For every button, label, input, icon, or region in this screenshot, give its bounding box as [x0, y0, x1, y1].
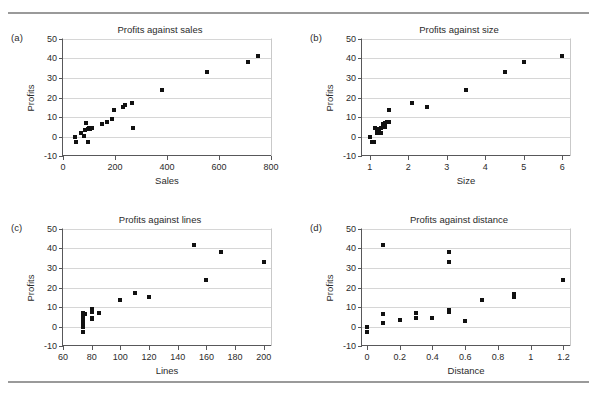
data-point: [463, 319, 467, 323]
y-axis-tick-label: 30: [346, 73, 356, 83]
y-axis-tick-label: 0: [52, 132, 57, 142]
y-axis-tick: [358, 346, 362, 347]
x-axis-tick: [447, 156, 448, 160]
x-axis-tick-label: 80: [87, 352, 97, 362]
data-point: [82, 134, 86, 138]
data-point: [84, 121, 88, 125]
x-axis-tick: [562, 156, 563, 160]
y-axis-tick-label: -10: [343, 151, 356, 161]
x-axis-tick-label: 60: [58, 352, 68, 362]
plot-area: Profits Size -1001020304050123456: [361, 38, 571, 156]
data-point: [560, 54, 564, 58]
x-axis-tick-label: 600: [211, 162, 226, 172]
x-axis-tick-label: 0.8: [492, 352, 505, 362]
data-point: [100, 122, 104, 126]
y-axis-tick: [358, 229, 362, 230]
y-axis-tick: [59, 98, 63, 99]
data-point: [464, 88, 468, 92]
data-point: [379, 131, 383, 135]
y-axis-tick-label: 50: [47, 224, 57, 234]
x-axis-tick-label: 180: [228, 352, 243, 362]
y-axis-tick-label: -10: [343, 341, 356, 351]
x-axis-tick: [115, 156, 116, 160]
gridline: [362, 78, 570, 79]
x-axis-tick: [485, 156, 486, 160]
y-axis-tick: [59, 307, 63, 308]
x-axis-tick-label: 160: [199, 352, 214, 362]
data-point: [219, 250, 223, 254]
y-axis-tick: [358, 78, 362, 79]
gridline: [63, 229, 271, 230]
x-axis-tick: [219, 156, 220, 160]
y-axis-tick: [358, 117, 362, 118]
data-point: [204, 278, 208, 282]
panel-profits-against-size: (b) Profits against size Profits Size -1…: [299, 14, 597, 204]
gridline: [362, 268, 570, 269]
y-axis-tick-label: 30: [346, 263, 356, 273]
x-axis-tick-label: 400: [159, 162, 174, 172]
gridline: [63, 137, 271, 138]
x-axis-tick: [206, 346, 207, 350]
x-axis-tick-label: 0: [60, 162, 65, 172]
panel-letter: (b): [310, 32, 322, 43]
y-axis-tick-label: 30: [47, 73, 57, 83]
x-axis-tick: [120, 346, 121, 350]
data-point: [522, 60, 526, 64]
data-point: [86, 140, 90, 144]
x-axis-tick: [563, 346, 564, 350]
gridline: [362, 117, 570, 118]
y-axis-tick-label: 40: [47, 243, 57, 253]
y-axis-tick: [59, 137, 63, 138]
x-axis-tick-label: 200: [256, 352, 271, 362]
plot-area: Profits Sales -1001020304050020040060080…: [62, 38, 272, 156]
data-point: [387, 108, 391, 112]
x-axis-line: [63, 345, 271, 346]
data-point: [81, 325, 85, 329]
data-point: [256, 54, 260, 58]
data-point: [410, 101, 414, 105]
data-point: [147, 295, 151, 299]
data-point: [387, 120, 391, 124]
data-point: [447, 260, 451, 264]
y-axis-tick-label: 20: [47, 283, 57, 293]
y-axis-tick: [358, 327, 362, 328]
x-axis-tick: [235, 346, 236, 350]
x-axis-tick-label: 3: [444, 162, 449, 172]
gridline: [362, 307, 570, 308]
x-axis-title: Size: [362, 175, 570, 186]
x-axis-tick: [524, 156, 525, 160]
plot-area: Profits Distance -100102030405000.20.40.…: [361, 228, 571, 346]
data-point: [368, 135, 372, 139]
data-point: [414, 316, 418, 320]
data-point: [131, 126, 135, 130]
y-axis-tick-label: -10: [44, 151, 57, 161]
gridline: [63, 58, 271, 59]
x-axis-tick-label: 0: [364, 352, 369, 362]
x-axis-tick-label: 2: [406, 162, 411, 172]
x-axis-tick: [149, 346, 150, 350]
x-axis-tick-label: 0.2: [393, 352, 406, 362]
x-axis-tick: [167, 156, 168, 160]
data-point: [133, 291, 137, 295]
x-axis-tick-label: 1: [367, 162, 372, 172]
y-axis-tick-label: 20: [47, 93, 57, 103]
data-point: [83, 312, 87, 316]
data-point: [447, 250, 451, 254]
y-axis-tick-label: 0: [351, 322, 356, 332]
y-axis-tick-label: 50: [346, 34, 356, 44]
y-axis-tick: [59, 327, 63, 328]
data-point: [90, 316, 94, 320]
panel-title: Profits against sales: [38, 24, 282, 35]
gridline: [63, 117, 271, 118]
x-axis-tick-label: 800: [263, 162, 278, 172]
x-axis-tick-label: 200: [107, 162, 122, 172]
x-axis-tick-label: 1: [528, 352, 533, 362]
gridline: [63, 327, 271, 328]
y-axis-tick-label: -10: [44, 341, 57, 351]
y-axis-tick-label: 50: [47, 34, 57, 44]
data-point: [97, 311, 101, 315]
x-axis-tick: [264, 346, 265, 350]
gridline: [63, 307, 271, 308]
x-axis-tick: [531, 346, 532, 350]
x-axis-tick: [498, 346, 499, 350]
